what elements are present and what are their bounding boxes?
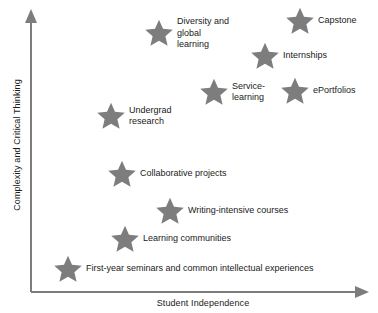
data-point-label: Learning communities <box>143 233 231 245</box>
star-icon <box>280 76 310 106</box>
data-point-label: Internships <box>283 50 327 62</box>
data-point-label: Service- learning <box>232 81 265 104</box>
star-icon <box>144 18 174 48</box>
data-point-capstone[interactable]: Capstone <box>285 6 357 36</box>
star-icon <box>285 6 315 36</box>
data-point-learning-communities[interactable]: Learning communities <box>110 224 231 254</box>
data-point-service-learning[interactable]: Service- learning <box>199 77 265 107</box>
star-icon <box>199 77 229 107</box>
star-icon <box>107 159 137 189</box>
data-point-writing-intensive-courses[interactable]: Writing-intensive courses <box>155 196 288 226</box>
y-axis-label: Complexity and Critical Thinking <box>12 45 22 245</box>
data-point-label: Capstone <box>318 15 357 27</box>
data-point-label: Diversity and global learning <box>177 16 229 51</box>
star-icon <box>96 101 126 131</box>
data-point-collaborative-projects[interactable]: Collaborative projects <box>107 159 227 189</box>
star-icon <box>53 254 83 284</box>
data-point-internships[interactable]: Internships <box>250 41 327 71</box>
data-point-label: Undergrad research <box>129 105 172 128</box>
star-icon <box>110 224 140 254</box>
data-point-diversity-and-global-learning[interactable]: Diversity and global learning <box>144 16 229 51</box>
data-point-label: Writing-intensive courses <box>188 205 288 217</box>
scatter-chart: Complexity and Critical Thinking Student… <box>0 0 378 313</box>
star-icon <box>250 41 280 71</box>
data-point-label: ePortfolios <box>313 85 356 97</box>
data-point-label: First-year seminars and common intellect… <box>86 263 314 275</box>
data-point-first-year-seminars[interactable]: First-year seminars and common intellect… <box>53 254 314 284</box>
star-icon <box>155 196 185 226</box>
x-axis-label: Student Independence <box>0 298 378 308</box>
data-point-eportfolios[interactable]: ePortfolios <box>280 76 356 106</box>
data-point-undergrad-research[interactable]: Undergrad research <box>96 101 172 131</box>
data-point-label: Collaborative projects <box>140 168 227 180</box>
